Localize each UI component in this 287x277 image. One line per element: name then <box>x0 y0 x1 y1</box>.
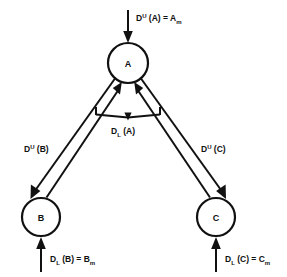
label-bottom-left-mid: (B) = B <box>60 254 90 264</box>
edge-c-to-a <box>134 82 210 198</box>
node-a[interactable]: A <box>108 43 148 83</box>
label-right-edge-mid: (C) <box>211 144 225 154</box>
label-center: DL (A) <box>111 126 135 138</box>
label-bottom-right: DL (C) = Cm <box>225 254 270 266</box>
label-right-edge: DU (C) <box>201 144 226 155</box>
bottom-left-input-arrow <box>36 237 46 272</box>
node-b-label: B <box>38 213 45 223</box>
label-center-mid: (A) <box>121 126 135 136</box>
top-input-arrow <box>123 10 133 43</box>
label-bottom-right-sub2: m <box>265 260 270 266</box>
label-left-edge-mid: (B) <box>34 144 48 154</box>
diagram-svg: A B C DU (A) = Am DU (B) <box>0 0 287 277</box>
label-bottom-left-sub2: m <box>90 260 95 266</box>
edge-a-to-b <box>31 79 116 200</box>
label-top-input-sub: m <box>176 19 181 25</box>
edge-b-to-a <box>47 82 122 198</box>
node-a-label: A <box>125 59 132 69</box>
node-b[interactable]: B <box>22 198 60 236</box>
diagram-canvas: A B C DU (A) = Am DU (B) <box>0 0 287 277</box>
label-top-input-mid: (A) = A <box>146 13 176 23</box>
bottom-right-input-arrow <box>211 237 221 272</box>
node-c-label: C <box>213 213 220 223</box>
label-left-edge: DU (B) <box>24 144 49 155</box>
edge-a-to-c <box>141 79 226 200</box>
label-top-input: DU (A) = Am <box>136 13 182 26</box>
label-bottom-right-mid: (C) = C <box>235 254 265 264</box>
node-c[interactable]: C <box>197 198 235 236</box>
label-bottom-left: DL (B) = Bm <box>50 254 95 266</box>
